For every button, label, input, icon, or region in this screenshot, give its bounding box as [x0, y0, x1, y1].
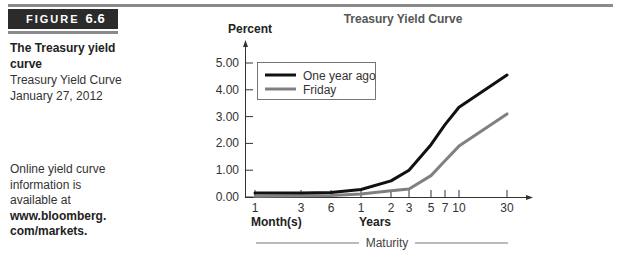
chart-title: Treasury Yield Curve	[344, 12, 463, 26]
y-axis-arrow-icon	[243, 40, 248, 47]
y-tick-label: 4.00	[216, 83, 240, 97]
legend-label: Friday	[303, 83, 336, 97]
x-tick-label: 10	[452, 201, 466, 215]
y-axis-label: Percent	[228, 22, 272, 36]
x-group-label-months: Month(s)	[251, 215, 302, 229]
y-ticks: 0.001.002.003.004.005.00	[216, 56, 253, 204]
y-tick-label: 5.00	[216, 56, 240, 70]
x-axis-arrow-icon	[526, 195, 533, 200]
yield-curve-chart: Treasury Yield Curve Percent 0.001.002.0…	[0, 0, 617, 260]
x-tick-label: 7	[442, 201, 449, 215]
y-tick-label: 2.00	[216, 136, 240, 150]
y-tick-label: 3.00	[216, 110, 240, 124]
x-tick-label: 1	[252, 201, 259, 215]
y-tick-label: 0.00	[216, 190, 240, 204]
legend: One year ago Friday	[258, 63, 377, 100]
x-tick-label: 6	[328, 201, 335, 215]
legend-label: One year ago	[303, 69, 376, 83]
x-tick-label: 3	[298, 201, 305, 215]
x-group-label-years: Years	[359, 215, 391, 229]
x-axis-label: Maturity	[366, 236, 409, 250]
x-tick-label: 2	[388, 201, 395, 215]
x-tick-label: 30	[500, 201, 514, 215]
x-tick-label: 3	[406, 201, 413, 215]
x-tick-label: 1	[358, 201, 365, 215]
y-tick-label: 1.00	[216, 163, 240, 177]
x-tick-label: 5	[428, 201, 435, 215]
